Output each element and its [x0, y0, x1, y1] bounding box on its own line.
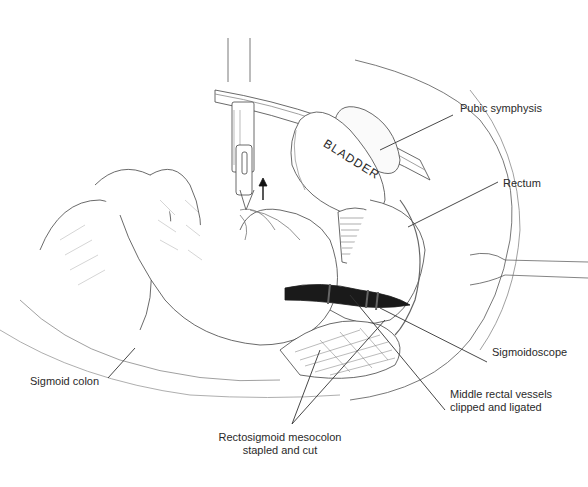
label-sigmoidoscope: Sigmoidoscope [492, 346, 567, 359]
label-rectum: Rectum [503, 177, 541, 190]
label-rectosigmoid-mesocolon-line2: stapled and cut [180, 444, 380, 457]
label-pubic-symphysis: Pubic symphysis [460, 102, 542, 115]
label-rectosigmoid-mesocolon-line1: Rectosigmoid mesocolon [180, 431, 380, 444]
label-middle-rectal-vessels-line2: clipped and ligated [450, 401, 552, 414]
label-rectosigmoid-mesocolon: Rectosigmoid mesocolon stapled and cut [180, 431, 380, 457]
label-middle-rectal-vessels-line1: Middle rectal vessels [450, 388, 552, 401]
label-middle-rectal-vessels: Middle rectal vessels clipped and ligate… [450, 388, 552, 414]
label-sigmoid-colon: Sigmoid colon [30, 375, 99, 388]
